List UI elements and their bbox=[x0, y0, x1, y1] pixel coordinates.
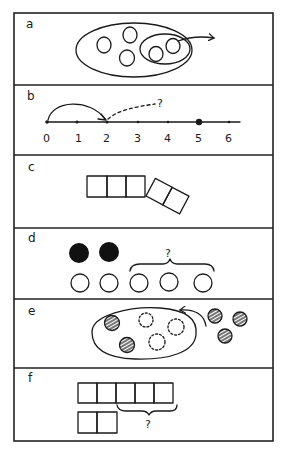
tick-0: 0 bbox=[43, 132, 50, 145]
bottom-square-row bbox=[78, 412, 117, 433]
panel-f: f ? bbox=[28, 371, 177, 433]
inner-subset-oval bbox=[140, 34, 190, 64]
circle bbox=[97, 37, 111, 53]
panel-d: d ? bbox=[28, 231, 214, 292]
question-mark: ? bbox=[145, 418, 151, 431]
tick-labels: 0 1 2 3 4 5 6 bbox=[43, 132, 232, 145]
panel-label-b: b bbox=[27, 89, 35, 103]
brace bbox=[117, 405, 177, 415]
highlighted-point bbox=[196, 119, 202, 125]
panel-label-e: e bbox=[28, 304, 35, 318]
striped-circle bbox=[208, 309, 222, 323]
panel-a: a bbox=[26, 17, 214, 77]
tilted-square-pair bbox=[146, 178, 189, 213]
question-mark: ? bbox=[157, 97, 163, 110]
panel-e: e bbox=[28, 304, 247, 359]
striped-circle bbox=[105, 316, 120, 331]
striped-circle bbox=[233, 312, 247, 326]
panel-label-c: c bbox=[28, 160, 35, 174]
tick-1: 1 bbox=[75, 132, 82, 145]
tick-3: 3 bbox=[134, 132, 141, 145]
outer-set-oval bbox=[76, 23, 192, 77]
top-square-row bbox=[78, 383, 173, 403]
panel-label-a: a bbox=[26, 17, 33, 31]
figure: a b ? 0 1 2 3 4 5 bbox=[0, 0, 286, 454]
panel-b: b ? 0 1 2 3 4 5 6 bbox=[27, 89, 240, 145]
dashed-circle bbox=[168, 319, 184, 335]
dashed-circle bbox=[149, 334, 165, 350]
circle bbox=[120, 50, 135, 66]
brace bbox=[130, 259, 214, 271]
arrow-icon bbox=[98, 114, 106, 120]
tick-2: 2 bbox=[103, 132, 110, 145]
panel-label-d: d bbox=[28, 231, 36, 245]
filled-circle bbox=[69, 243, 89, 263]
arrow-icon bbox=[180, 310, 206, 326]
square-row bbox=[87, 176, 145, 197]
dashed-arrow bbox=[108, 104, 155, 119]
striped-circle bbox=[120, 338, 135, 353]
tick-5: 5 bbox=[195, 132, 202, 145]
tick-4: 4 bbox=[164, 132, 171, 145]
filled-circle bbox=[99, 242, 119, 262]
tick-6: 6 bbox=[225, 132, 232, 145]
question-mark: ? bbox=[165, 247, 171, 260]
circle bbox=[123, 27, 137, 43]
panel-c: c bbox=[28, 160, 189, 214]
circle bbox=[149, 47, 163, 62]
panel-label-f: f bbox=[28, 371, 33, 385]
dashed-circle bbox=[139, 313, 153, 327]
jump-arc bbox=[48, 104, 105, 120]
arrow-icon bbox=[178, 37, 214, 41]
striped-circle bbox=[218, 329, 232, 343]
open-circle-row bbox=[71, 273, 212, 292]
